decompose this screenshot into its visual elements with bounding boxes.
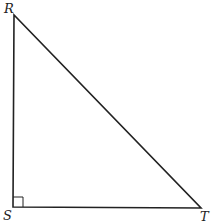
vertex-label-s: S: [3, 208, 12, 223]
triangle-rst: [13, 15, 201, 208]
vertex-label-t: T: [200, 209, 210, 223]
triangle-diagram: R S T: [0, 0, 213, 223]
vertex-label-r: R: [3, 1, 14, 16]
right-angle-marker: [13, 197, 23, 207]
